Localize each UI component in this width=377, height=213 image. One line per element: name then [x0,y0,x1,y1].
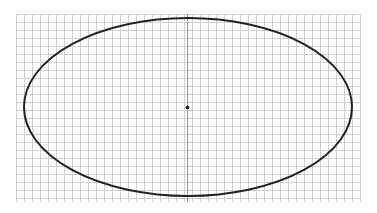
center-point [186,106,190,110]
grid-diagram [0,0,377,213]
